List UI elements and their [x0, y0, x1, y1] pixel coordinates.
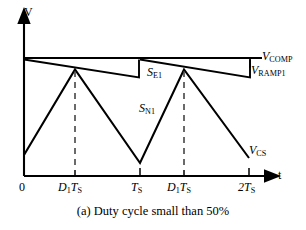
- signal-label-vcs-sub: CS: [256, 149, 266, 158]
- figure-caption: (a) Duty cycle small than 50%: [0, 204, 306, 219]
- slope-label-sn1-sub: N1: [145, 107, 155, 116]
- x-tick-label-origin: 0: [19, 181, 25, 193]
- x-tick-label-2ts: 2TS: [238, 181, 255, 193]
- x-tick-label-ts-t: T: [131, 180, 138, 194]
- vcs-waveform: [24, 70, 249, 164]
- signal-label-vcomp-sub: COMP: [269, 55, 292, 64]
- slope-label-se1: SE1: [147, 66, 162, 78]
- x-tick-label-ts: TS: [131, 181, 142, 193]
- x-tick-label-2ts-sub: S: [251, 186, 256, 195]
- x-tick-label-d1ts-2-sub2: S: [186, 186, 191, 195]
- x-tick-label-d1ts-sub2: S: [77, 186, 82, 195]
- signal-label-vramp1: VRAMP1: [251, 64, 286, 76]
- x-axis-label: t: [278, 169, 281, 181]
- slope-label-se1-sub: E1: [153, 71, 162, 80]
- x-tick-label-d1ts-2: D1TS: [167, 181, 191, 193]
- slope-label-sn1: SN1: [139, 102, 155, 114]
- x-tick-label-d1ts-2-d: D: [167, 180, 176, 194]
- x-tick-label-d1ts-2-sub1: 1: [176, 186, 180, 195]
- x-tick-label-2ts-base: 2T: [238, 180, 251, 194]
- x-tick-label-d1ts-d: D: [58, 180, 67, 194]
- vramp1-period-1: [24, 60, 139, 78]
- signal-label-vramp1-sub: RAMP1: [258, 69, 285, 78]
- signal-label-vcomp: VCOMP: [262, 50, 292, 62]
- y-axis-label: V: [24, 6, 33, 18]
- signal-label-vcs: VCS: [249, 144, 266, 156]
- x-tick-label-ts-sub: S: [138, 186, 143, 195]
- waveform-figure: V t 0 D1TS TS D1TS 2TS VCOMP VRAMP1 VCS …: [0, 0, 306, 230]
- x-tick-label-d1ts-sub1: 1: [67, 186, 71, 195]
- x-tick-label-d1ts: D1TS: [58, 181, 82, 193]
